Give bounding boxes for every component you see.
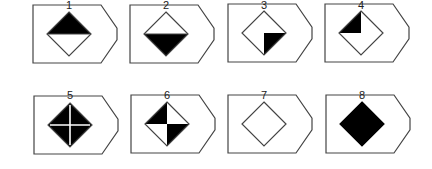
option-number: 8	[359, 89, 365, 101]
answer-options-diagram: 12345678	[0, 0, 432, 169]
option-frame	[228, 95, 312, 153]
option-number: 1	[66, 0, 72, 11]
option-4[interactable]: 4	[325, 0, 409, 62]
option-7[interactable]: 7	[228, 89, 312, 153]
option-2[interactable]: 2	[130, 0, 214, 63]
option-number: 6	[164, 89, 170, 101]
option-number: 5	[67, 89, 73, 101]
option-8[interactable]: 8	[326, 89, 410, 153]
option-6[interactable]: 6	[131, 89, 215, 153]
option-number: 4	[358, 0, 364, 11]
option-number: 2	[163, 0, 169, 11]
option-frame	[325, 4, 409, 62]
option-5[interactable]: 5	[34, 89, 118, 154]
option-1[interactable]: 1	[33, 0, 117, 63]
option-number: 3	[261, 0, 267, 11]
option-3[interactable]: 3	[228, 0, 312, 62]
option-number: 7	[261, 89, 267, 101]
